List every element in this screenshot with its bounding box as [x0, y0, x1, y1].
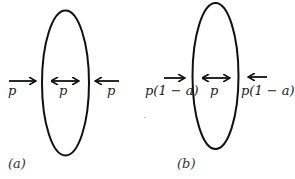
label-center-b: p: [210, 83, 219, 98]
label-right-b: p(1 − a): [241, 83, 295, 98]
label-left-b: p(1 − a): [145, 83, 199, 98]
caption-b: (b): [177, 156, 195, 171]
label-left-a: p: [8, 83, 17, 98]
stray-dot: [144, 117, 146, 118]
ellipse-b: [193, 3, 239, 149]
panel-b: p(1 − a) p p(1 − a) (b): [145, 3, 295, 171]
caption-a: (a): [8, 156, 26, 171]
label-center-a: p: [59, 83, 68, 98]
panel-a: p p p (a): [8, 11, 119, 172]
label-right-a: p: [107, 83, 116, 98]
diagram-canvas: p p p (a) p(1 − a) p p(1 − a) (b): [0, 0, 295, 179]
